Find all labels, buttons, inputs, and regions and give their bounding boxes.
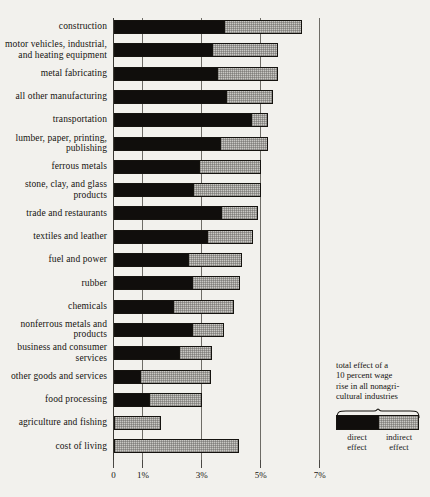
x-tick-mark bbox=[201, 460, 202, 468]
bar-segment-direct bbox=[114, 253, 189, 267]
category-label-line: publishing bbox=[0, 143, 107, 154]
bar-stacked bbox=[114, 206, 258, 220]
bar-stacked bbox=[114, 323, 224, 337]
bar-segment-direct bbox=[114, 137, 221, 151]
legend-label-indirect-line: indirect bbox=[378, 432, 420, 442]
bar-segment-indirect bbox=[193, 183, 260, 197]
bar-segment-indirect bbox=[192, 323, 224, 337]
legend-label-direct: directeffect bbox=[336, 432, 378, 452]
category-label: business and consumerservices bbox=[0, 342, 107, 363]
bar-segment-indirect bbox=[217, 67, 278, 81]
bar-stacked bbox=[114, 90, 273, 104]
x-tick-label: 7% bbox=[305, 470, 335, 480]
category-label: chemicals bbox=[0, 301, 107, 312]
category-label-line: nonferrous metals and bbox=[0, 319, 107, 330]
bar-stacked bbox=[114, 183, 261, 197]
category-label-line: ferrous metals bbox=[0, 161, 107, 172]
bar-stacked bbox=[114, 43, 279, 57]
bar-segment-indirect bbox=[251, 113, 268, 127]
gridline-5pct bbox=[260, 18, 261, 460]
category-label: ferrous metals bbox=[0, 161, 107, 172]
category-label-line: all other manufacturing bbox=[0, 91, 107, 102]
chart-legend: total effect of a10 percent wagerise in … bbox=[336, 360, 428, 452]
category-label-line: products bbox=[0, 329, 107, 340]
bar-segment-direct bbox=[114, 370, 141, 384]
category-label: lumber, paper, printing,publishing bbox=[0, 133, 107, 154]
bar-stacked bbox=[114, 370, 211, 384]
category-label-line: trade and restaurants bbox=[0, 208, 107, 219]
x-tick-label: 5% bbox=[246, 470, 276, 480]
bar-stacked bbox=[114, 253, 242, 267]
bar-stacked bbox=[114, 67, 279, 81]
category-label-line: textiles and leather bbox=[0, 231, 107, 242]
bar-segment-direct bbox=[114, 393, 151, 407]
category-label: trade and restaurants bbox=[0, 208, 107, 219]
legend-keys: directeffect indirecteffect bbox=[336, 432, 420, 452]
bar-stacked bbox=[114, 416, 162, 430]
category-label: metal fabricating bbox=[0, 68, 107, 79]
category-label-line: business and consumer bbox=[0, 342, 107, 353]
bar-segment-direct bbox=[114, 183, 195, 197]
bar-segment-indirect bbox=[114, 416, 162, 430]
x-tick-label: 3% bbox=[187, 470, 217, 480]
category-label-line: food processing bbox=[0, 394, 107, 405]
category-label-line: construction bbox=[0, 21, 107, 32]
legend-swatch bbox=[336, 415, 420, 430]
bar-segment-indirect bbox=[173, 300, 234, 314]
bar-segment-direct bbox=[114, 67, 219, 81]
category-label-line: chemicals bbox=[0, 301, 107, 312]
bar-segment-indirect bbox=[199, 160, 261, 174]
category-label-line: other goods and services bbox=[0, 371, 107, 382]
bar-segment-indirect bbox=[192, 276, 240, 290]
bar-segment-direct bbox=[114, 276, 194, 290]
category-label-line: cost of living bbox=[0, 441, 107, 452]
bar-stacked bbox=[114, 276, 241, 290]
legend-caption-line: cultural industries bbox=[336, 391, 428, 401]
chart-root: constructionmotor vehicles, industrial,a… bbox=[0, 0, 430, 497]
category-label-line: transportation bbox=[0, 114, 107, 125]
legend-caption-line: rise in all nonagri- bbox=[336, 381, 428, 391]
legend-caption: total effect of a10 percent wagerise in … bbox=[336, 360, 428, 402]
bar-segment-direct bbox=[114, 20, 226, 34]
legend-label-direct-line: effect bbox=[336, 442, 378, 452]
bar-segment-direct bbox=[114, 206, 223, 220]
bar-segment-indirect bbox=[221, 206, 257, 220]
category-label: nonferrous metals andproducts bbox=[0, 319, 107, 340]
bar-segment-direct bbox=[114, 300, 174, 314]
bar-stacked bbox=[114, 137, 269, 151]
legend-brace-icon bbox=[336, 405, 420, 415]
category-label: agriculture and fishing bbox=[0, 417, 107, 428]
legend-label-indirect: indirecteffect bbox=[378, 432, 420, 452]
bar-segment-indirect bbox=[226, 90, 273, 104]
bar-segment-indirect bbox=[207, 230, 254, 244]
bar-segment-direct bbox=[114, 346, 180, 360]
bar-segment-indirect bbox=[149, 393, 202, 407]
bar-segment-direct bbox=[114, 43, 213, 57]
bar-segment-direct bbox=[114, 230, 208, 244]
category-label-line: rubber bbox=[0, 278, 107, 289]
category-label: stone, clay, and glassproducts bbox=[0, 179, 107, 200]
bar-segment-direct bbox=[114, 323, 194, 337]
legend-label-direct-line: direct bbox=[336, 432, 378, 442]
bar-stacked bbox=[114, 20, 302, 34]
bar-stacked bbox=[114, 439, 239, 453]
x-tick-mark bbox=[319, 460, 320, 468]
bar-stacked bbox=[114, 393, 202, 407]
bar-segment-direct bbox=[114, 160, 200, 174]
category-label: food processing bbox=[0, 394, 107, 405]
bar-segment-indirect bbox=[140, 370, 211, 384]
bar-stacked bbox=[114, 113, 269, 127]
gridline-7pct bbox=[319, 18, 320, 460]
x-tick-mark bbox=[142, 460, 143, 468]
bar-segment-indirect bbox=[212, 43, 279, 57]
bar-segment-indirect bbox=[114, 439, 239, 453]
bar-stacked bbox=[114, 300, 235, 314]
category-label: rubber bbox=[0, 278, 107, 289]
legend-caption-line: total effect of a bbox=[336, 360, 428, 370]
category-label: transportation bbox=[0, 114, 107, 125]
category-label-line: lumber, paper, printing, bbox=[0, 133, 107, 144]
category-label: fuel and power bbox=[0, 254, 107, 265]
category-label-line: fuel and power bbox=[0, 254, 107, 265]
category-label-line: agriculture and fishing bbox=[0, 417, 107, 428]
category-label-line: stone, clay, and glass bbox=[0, 179, 107, 190]
